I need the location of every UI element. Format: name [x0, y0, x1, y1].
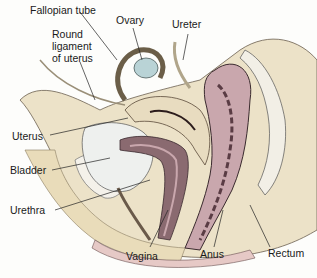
label-round-ligament-line3: of uterus	[52, 52, 93, 64]
label-ureter: Ureter	[172, 18, 201, 30]
label-uterus: Uterus	[12, 130, 43, 142]
label-rectum: Rectum	[268, 247, 304, 259]
label-urethra: Urethra	[10, 204, 45, 216]
label-round-ligament-line1: Round	[52, 28, 83, 40]
label-bladder: Bladder	[10, 164, 46, 176]
label-fallopian-tube: Fallopian tube	[30, 4, 96, 16]
ureter-shape	[174, 42, 190, 88]
label-round-ligament-line2: ligament	[52, 40, 92, 52]
anatomy-illustration	[0, 0, 317, 278]
label-anus: Anus	[200, 248, 224, 260]
label-vagina: Vagina	[126, 250, 158, 262]
ovary-shape	[134, 58, 158, 78]
anatomy-diagram: Fallopian tube Ovary Ureter Round ligame…	[0, 0, 317, 278]
label-ovary: Ovary	[116, 14, 144, 26]
